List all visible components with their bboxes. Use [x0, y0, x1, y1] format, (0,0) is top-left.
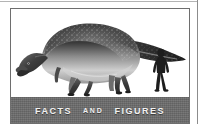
figure-root: Facts and Figures — [0, 0, 204, 124]
caption-word-figures: Figures — [115, 104, 166, 117]
illustration-artwork — [11, 9, 189, 97]
dinosaur-scene-svg — [11, 9, 189, 97]
page-rule-right — [197, 0, 198, 124]
illustration-plate: Facts and Figures — [10, 8, 190, 124]
caption-word-facts: Facts — [35, 104, 72, 117]
caption-banner: Facts and Figures — [11, 97, 189, 123]
caption-word-and: and — [83, 105, 104, 115]
caption-text-row: Facts and Figures — [11, 97, 189, 123]
page-rule-top — [0, 1, 198, 2]
